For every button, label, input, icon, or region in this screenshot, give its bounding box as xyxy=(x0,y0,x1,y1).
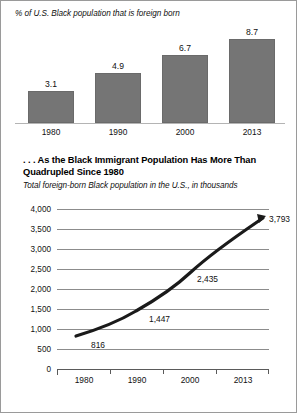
bar-chart-title: % of U.S. Black population that is forei… xyxy=(15,9,180,18)
bar-value-label: 3.1 xyxy=(16,79,86,89)
bar-xtick-label: 2013 xyxy=(229,127,275,137)
bar-xtick-label: 1990 xyxy=(95,127,141,137)
line-chart-plot-area: 4,000 3,500 3,000 2,500 2,000 1,500 1,00… xyxy=(1,201,297,406)
bar-chart-baseline xyxy=(15,123,285,124)
point-value-label: 3,793 xyxy=(269,214,290,224)
point-value-label: 816 xyxy=(91,340,105,350)
bar-rect xyxy=(229,39,275,123)
point-value-label: 1,447 xyxy=(149,314,170,324)
infographic-figure: % of U.S. Black population that is forei… xyxy=(0,0,297,413)
point-value-label: 2,435 xyxy=(197,274,218,284)
bar-column-2000: 6.7 xyxy=(162,25,208,123)
bar-rect xyxy=(28,91,74,123)
bar-column-1990: 4.9 xyxy=(95,25,141,123)
bar-chart-panel: % of U.S. Black population that is forei… xyxy=(1,1,296,146)
line-chart-subtitle: Total foreign-born Black population in t… xyxy=(23,181,269,192)
bar-value-label: 8.7 xyxy=(217,27,287,37)
bar-rect xyxy=(95,73,141,123)
line-chart-panel: . . . As the Black Immigrant Population … xyxy=(1,146,296,413)
xtick-label: 2013 xyxy=(220,375,266,385)
bar-column-2013: 8.7 xyxy=(229,25,275,123)
xtick-label: 2000 xyxy=(167,375,213,385)
bar-xtick-label: 2000 xyxy=(162,127,208,137)
bar-rect xyxy=(162,55,208,123)
bar-xtick-label: 1980 xyxy=(28,127,74,137)
xtick-label: 1980 xyxy=(61,375,107,385)
bar-value-label: 6.7 xyxy=(150,43,220,53)
bar-column-1980: 3.1 xyxy=(28,25,74,123)
section-headline: . . . As the Black Immigrant Population … xyxy=(23,155,273,178)
bar-chart-plot-area: 3.1 4.9 6.7 8.7 xyxy=(15,25,283,123)
xtick-label: 1990 xyxy=(114,375,160,385)
bar-value-label: 4.9 xyxy=(83,61,153,71)
